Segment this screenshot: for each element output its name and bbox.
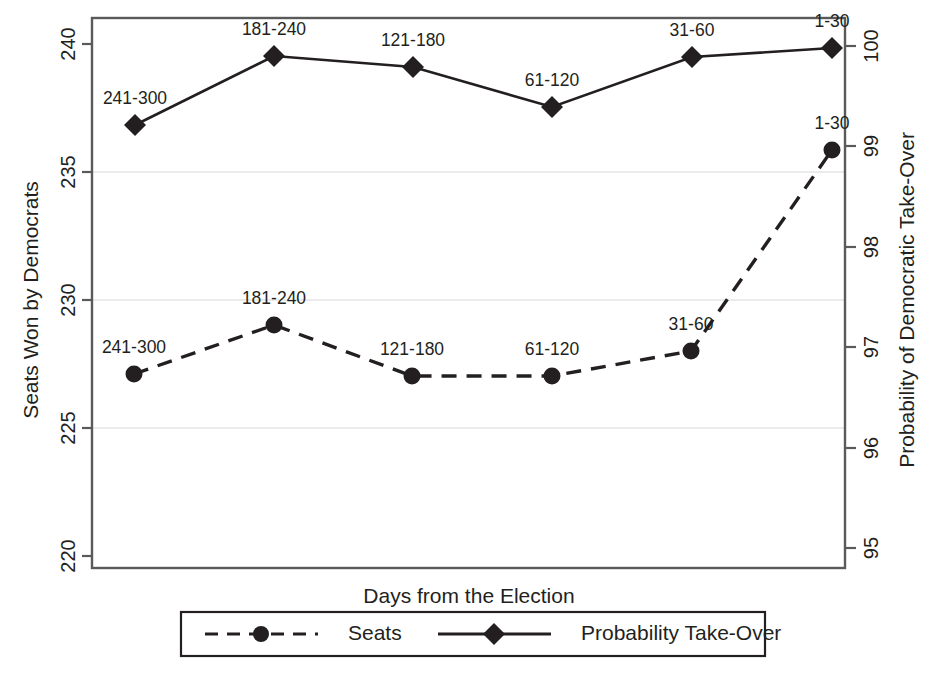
- marker-circle: [544, 368, 561, 385]
- point-label: 121-180: [380, 339, 444, 359]
- legend-probability-label: Probability Take-Over: [581, 621, 781, 644]
- chart-legend: Seats Probability Take-Over: [181, 612, 781, 656]
- marker-circle: [683, 343, 700, 360]
- plot-frame: [92, 18, 845, 568]
- right-axis-title: Probability of Democratic Take-Over: [895, 132, 918, 468]
- point-label: 181-240: [242, 288, 306, 308]
- legend-seats-marker-circle: [253, 626, 269, 642]
- x-axis-title: Days from the Election: [363, 584, 574, 607]
- marker-circle: [404, 368, 421, 385]
- marker-diamond: [821, 37, 843, 59]
- seats-point-labels: 241-300 181-240 121-180 61-120 31-60 1-3…: [102, 113, 850, 359]
- marker-diamond: [124, 114, 146, 136]
- seats-markers: [126, 142, 841, 385]
- point-label: 1-30: [814, 11, 849, 31]
- point-label: 1-30: [814, 113, 849, 133]
- legend-seats-label: Seats: [348, 621, 402, 644]
- left-tick-label-230: 230: [57, 283, 79, 316]
- marker-circle: [266, 317, 283, 334]
- right-tick-label-98: 98: [860, 236, 882, 258]
- series-probability-take-over: 241-300 181-240 121-180 61-120 31-60 1-3…: [103, 11, 850, 136]
- marker-diamond: [681, 46, 703, 68]
- right-tick-label-100: 100: [860, 29, 882, 62]
- probability-point-labels: 241-300 181-240 121-180 61-120 31-60 1-3…: [103, 11, 850, 108]
- left-tick-label-240: 240: [57, 27, 79, 60]
- point-label: 241-300: [102, 337, 166, 357]
- right-axis-tick-labels: 100 99 98 97 96 95: [860, 29, 882, 559]
- gridlines: [92, 172, 845, 428]
- point-label: 31-60: [669, 314, 714, 334]
- chart-svg: 240 235 230 225 220 Seats Won by Democra…: [0, 0, 932, 684]
- marker-circle: [126, 366, 143, 383]
- marker-diamond: [541, 96, 563, 118]
- marker-diamond: [402, 56, 424, 78]
- marker-diamond: [263, 45, 285, 67]
- point-label: 61-120: [525, 70, 580, 90]
- right-tick-label-96: 96: [860, 437, 882, 459]
- point-label: 241-300: [103, 88, 167, 108]
- left-axis-tick-labels: 240 235 230 225 220: [57, 27, 79, 572]
- marker-circle: [824, 142, 841, 159]
- left-tick-label-235: 235: [57, 155, 79, 188]
- seats-line: [134, 150, 832, 376]
- point-label: 181-240: [242, 19, 306, 39]
- right-tick-label-97: 97: [860, 336, 882, 358]
- right-tick-label-95: 95: [860, 537, 882, 559]
- left-axis-title: Seats Won by Democrats: [19, 181, 42, 419]
- left-tick-label-220: 220: [57, 539, 79, 572]
- left-tick-label-225: 225: [57, 411, 79, 444]
- right-tick-label-99: 99: [860, 135, 882, 157]
- point-label: 121-180: [381, 30, 445, 50]
- point-label: 31-60: [670, 20, 715, 40]
- chart-figure: 240 235 230 225 220 Seats Won by Democra…: [0, 0, 932, 684]
- left-axis-ticks: [82, 44, 92, 556]
- probability-line: [135, 48, 832, 125]
- point-label: 61-120: [525, 339, 580, 359]
- series-seats: 241-300 181-240 121-180 61-120 31-60 1-3…: [102, 113, 850, 385]
